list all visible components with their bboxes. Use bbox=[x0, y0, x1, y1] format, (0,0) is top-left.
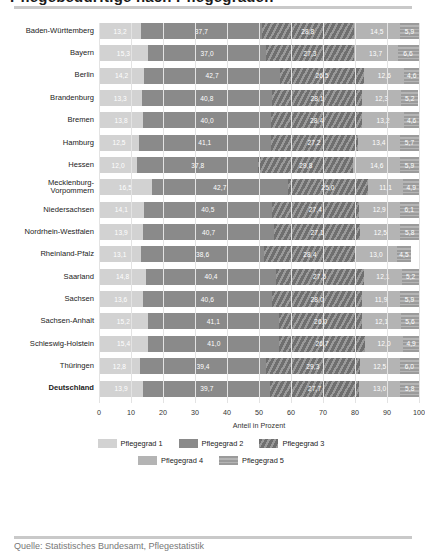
legend-item-pflegegrad-5[interactable]: Pflegegrad 5 bbox=[219, 456, 284, 465]
bar-segment-pflegegrad-3: 28,1 bbox=[272, 90, 362, 106]
chart-row: Bayern15,337,027,313,76,6 bbox=[0, 45, 422, 61]
bar-segment-pflegegrad-2: 40,0 bbox=[143, 112, 271, 128]
segment-value-label: 13,4 bbox=[372, 139, 385, 146]
stacked-bar: 13,138,628,413,04,5 bbox=[99, 246, 419, 262]
segment-value-label: 39,4 bbox=[196, 363, 209, 370]
bar-segment-pflegegrad-1: 15,3 bbox=[99, 45, 148, 61]
row-label-mecklenburg-vorpommern: Mecklenburg-Vorpommern bbox=[0, 179, 99, 196]
bar-segment-pflegegrad-1: 16,5 bbox=[99, 179, 152, 195]
page-title: Pflegebedürftige nach Pflegegraden bbox=[10, 0, 274, 5]
bar-segment-pflegegrad-2: 40,6 bbox=[143, 291, 273, 307]
footer-note: Quelle: Statistisches Bundesamt, Pfleges… bbox=[14, 541, 204, 551]
bar-segment-pflegegrad-5: 4,6 bbox=[404, 112, 419, 128]
bar-segment-pflegegrad-2: 42,7 bbox=[152, 179, 288, 195]
bar-segment-pflegegrad-1: 13,8 bbox=[99, 112, 143, 128]
bar-segment-pflegegrad-5: 6,1 bbox=[400, 202, 419, 218]
segment-value-label: 6,1 bbox=[405, 206, 414, 213]
segment-value-label: 12,3 bbox=[375, 95, 388, 102]
segment-value-label: 37,7 bbox=[195, 28, 208, 35]
chart-row: Brandenburg13,340,828,112,35,2 bbox=[0, 90, 422, 106]
bar-segment-pflegegrad-1: 14,8 bbox=[99, 269, 146, 285]
legend-row-2: Pflegegrad 4Pflegegrad 5 bbox=[0, 456, 422, 465]
bar-segment-pflegegrad-5: 6,0 bbox=[400, 358, 419, 374]
chart-row: Thüringen12,839,429,312,56,0 bbox=[0, 358, 422, 374]
bar-segment-pflegegrad-2: 37,8 bbox=[137, 157, 258, 173]
bar-segment-pflegegrad-5: 6,6 bbox=[398, 45, 419, 61]
bar-segment-pflegegrad-1: 13,1 bbox=[99, 246, 141, 262]
segment-value-label: 13,8 bbox=[114, 117, 127, 124]
legend-row-1: Pflegegrad 1Pflegegrad 2Pflegegrad 3 bbox=[0, 439, 422, 448]
bar-segment-pflegegrad-3: 29,8 bbox=[258, 157, 353, 173]
segment-value-label: 40,5 bbox=[201, 206, 214, 213]
legend-item-pflegegrad-4[interactable]: Pflegegrad 4 bbox=[138, 456, 203, 465]
bar-segment-pflegegrad-2: 39,7 bbox=[143, 381, 270, 397]
segment-value-label: 37,0 bbox=[201, 50, 214, 57]
segment-value-label: 29,3 bbox=[306, 363, 319, 370]
stacked-bar: 12,839,429,312,56,0 bbox=[99, 358, 419, 374]
bar-segment-pflegegrad-4: 12,3 bbox=[362, 90, 401, 106]
row-label-bayern: Bayern bbox=[0, 49, 99, 57]
segment-value-label: 40,0 bbox=[201, 117, 214, 124]
legend-swatch-icon bbox=[98, 439, 117, 448]
row-label-sachsen-anhalt: Sachsen-Anhalt bbox=[0, 317, 99, 325]
x-tick-label: 100 bbox=[413, 408, 425, 417]
legend-item-pflegegrad-3[interactable]: Pflegegrad 3 bbox=[259, 439, 324, 448]
row-label-hessen: Hessen bbox=[0, 161, 99, 169]
chart-row: Hessen12,037,829,814,65,9 bbox=[0, 157, 422, 173]
segment-value-label: 14,5 bbox=[370, 28, 383, 35]
bar-segment-pflegegrad-3: 25,0 bbox=[288, 179, 368, 195]
row-label-baden-w-rttemberg: Baden-Württemberg bbox=[0, 27, 99, 35]
row-label-deutschland: Deutschland bbox=[0, 384, 99, 392]
x-tick-label: 80 bbox=[351, 408, 359, 417]
bar-segment-pflegegrad-5: 5,9 bbox=[400, 23, 419, 39]
legend-label: Pflegegrad 5 bbox=[242, 456, 284, 465]
segment-value-label: 15,3 bbox=[117, 50, 130, 57]
bar-segment-pflegegrad-2: 41,1 bbox=[148, 313, 280, 329]
segment-value-label: 14,8 bbox=[116, 273, 129, 280]
bar-segment-pflegegrad-5: 5,9 bbox=[400, 157, 419, 173]
bar-segment-pflegegrad-2: 38,6 bbox=[141, 246, 265, 262]
segment-value-label: 28,1 bbox=[310, 95, 323, 102]
segment-value-label: 12,8 bbox=[113, 363, 126, 370]
row-label-bremen: Bremen bbox=[0, 116, 99, 124]
bar-segment-pflegegrad-4: 13,4 bbox=[358, 135, 401, 151]
x-tick-label: 90 bbox=[383, 408, 391, 417]
row-label-hamburg: Hamburg bbox=[0, 139, 99, 147]
segment-value-label: 26,5 bbox=[316, 72, 329, 79]
bar-segment-pflegegrad-3: 27,4 bbox=[272, 202, 359, 218]
segment-value-label: 29,8 bbox=[299, 162, 312, 169]
segment-value-label: 42,7 bbox=[213, 184, 226, 191]
bar-segment-pflegegrad-5: 4,9 bbox=[403, 179, 419, 195]
segment-value-label: 11,9 bbox=[375, 296, 388, 303]
segment-value-label: 15,2 bbox=[117, 318, 130, 325]
bar-segment-pflegegrad-4: 12,6 bbox=[364, 68, 404, 84]
bar-segment-pflegegrad-2: 40,7 bbox=[143, 224, 273, 240]
legend-label: Pflegegrad 2 bbox=[202, 439, 244, 448]
segment-value-label: 5,2 bbox=[405, 95, 414, 102]
chart-row: Deutschland13,939,727,713,05,8 bbox=[0, 381, 422, 397]
chart-row: Sachsen-Anhalt15,241,126,012,15,6 bbox=[0, 313, 422, 329]
segment-value-label: 13,0 bbox=[369, 251, 382, 258]
row-label-nordrhein-westfalen: Nordrhein-Westfalen bbox=[0, 228, 99, 236]
bar-segment-pflegegrad-3: 26,0 bbox=[279, 313, 362, 329]
segment-value-label: 27,2 bbox=[307, 139, 320, 146]
bar-segment-pflegegrad-3: 28,4 bbox=[264, 246, 355, 262]
bar-segment-pflegegrad-2: 37,0 bbox=[148, 45, 266, 61]
bar-segment-pflegegrad-5: 5,9 bbox=[400, 291, 419, 307]
segment-value-label: 27,4 bbox=[309, 206, 322, 213]
bar-segment-pflegegrad-4: 12,9 bbox=[359, 202, 400, 218]
segment-value-label: 5,9 bbox=[405, 296, 414, 303]
x-tick-label: 70 bbox=[319, 408, 327, 417]
bar-segment-pflegegrad-4: 12,1 bbox=[364, 269, 403, 285]
x-tick-label: 20 bbox=[159, 408, 167, 417]
segment-value-label: 40,7 bbox=[202, 229, 215, 236]
legend-label: Pflegegrad 1 bbox=[121, 439, 163, 448]
legend-item-pflegegrad-1[interactable]: Pflegegrad 1 bbox=[98, 439, 163, 448]
segment-value-label: 13,2 bbox=[377, 117, 390, 124]
bar-segment-pflegegrad-2: 41,0 bbox=[148, 336, 279, 352]
bar-segment-pflegegrad-1: 13,6 bbox=[99, 291, 143, 307]
legend-item-pflegegrad-2[interactable]: Pflegegrad 2 bbox=[179, 439, 244, 448]
x-tick-label: 10 bbox=[127, 408, 135, 417]
segment-value-label: 25,0 bbox=[321, 184, 334, 191]
segment-value-label: 5,7 bbox=[405, 139, 414, 146]
